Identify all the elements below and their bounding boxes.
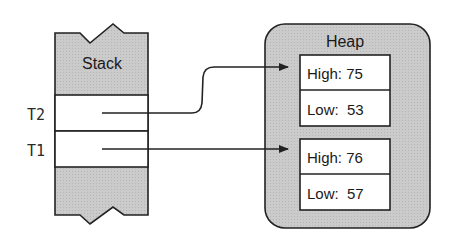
heap: Heap High: 75 Low: 53 High: 76 Low: 57 [265,24,430,228]
field-low: Low: 57 [307,185,364,202]
field-high: High: 75 [307,65,363,82]
field-low: Low: 53 [307,101,364,118]
heap-object-1: High: 75 Low: 53 [300,55,390,126]
field-high: High: 76 [307,149,363,166]
heap-title: Heap [326,33,364,50]
stack-title: Stack [82,55,123,72]
stack: Stack T2 T1 [27,24,148,224]
heap-object-2: High: 76 Low: 57 [300,139,390,210]
slot-label-t1: T1 [27,142,45,160]
stack-heap-diagram: Stack T2 T1 Heap High: 75 Low: 53 High: … [0,0,454,242]
slot-label-t2: T2 [27,106,45,124]
